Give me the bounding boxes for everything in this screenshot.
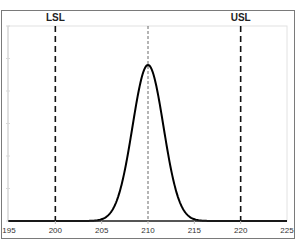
x-tick-label: 200 — [49, 226, 63, 235]
x-tick-label: 210 — [141, 226, 155, 235]
x-tick-label: 205 — [95, 226, 109, 235]
x-tick-label: 220 — [234, 226, 248, 235]
process-capability-chart: 195200205210215220225 LSL USL — [0, 0, 301, 245]
x-tick-label: 195 — [2, 226, 16, 235]
x-axis-tick-labels: 195200205210215220225 — [2, 221, 294, 235]
x-tick-label: 215 — [188, 226, 202, 235]
lsl-label: LSL — [46, 12, 65, 23]
usl-label: USL — [231, 12, 251, 23]
plot-area — [8, 26, 287, 221]
x-tick-label: 225 — [280, 226, 294, 235]
